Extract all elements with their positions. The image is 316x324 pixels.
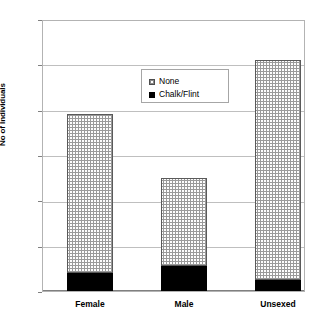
square-dotted-marker-icon [149,79,155,85]
square-black-marker-icon [149,92,155,98]
legend-item-none: None [149,77,179,86]
bar-group-male [161,178,207,291]
bar-group-female [67,114,113,291]
x-tick-label-female: Female [45,300,135,309]
bar-segment-chalk-flint-male [161,266,207,291]
bar-segment-none-male [161,178,207,266]
y-axis-title: No of Individuals [0,26,7,146]
legend-label-chalk-flint: Chalk/Flint [159,90,199,99]
x-tick-label-unsexed: Unsexed [233,300,316,309]
bar-group-unsexed [255,60,301,291]
bar-segment-none-unsexed [255,60,301,280]
x-tick-label-male: Male [139,300,229,309]
legend-label-none: None [159,77,179,86]
bar-segment-chalk-flint-unsexed [255,280,301,291]
bar-segment-chalk-flint-female [67,273,113,291]
legend-item-chalk-flint: Chalk/Flint [149,90,199,99]
stacked-bar-chart: No of Individuals 120 100 80 60 40 20 0 [0,0,316,324]
y-tick-mark-0 [38,292,42,293]
plot-area: None Chalk/Flint [42,20,305,292]
bar-segment-none-female [67,114,113,273]
chart-legend: None Chalk/Flint [141,69,229,103]
